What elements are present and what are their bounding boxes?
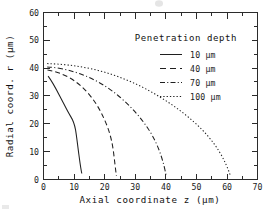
legend: Penetration depth 10 µm 40 µm 70 µm 100 … bbox=[135, 33, 237, 102]
y-tick-label: 0 bbox=[34, 175, 39, 185]
x-axis-title: Axial coordinate z (µm) bbox=[79, 194, 220, 205]
y-tick-label: 50 bbox=[29, 35, 39, 45]
x-tick-label: 10 bbox=[69, 182, 79, 192]
curve-40um bbox=[48, 70, 117, 176]
y-tick-label: 60 bbox=[29, 8, 39, 18]
legend-entry-10um[interactable]: 10 µm bbox=[160, 50, 216, 60]
curve-10um bbox=[48, 76, 82, 173]
x-tick-label: 0 bbox=[41, 182, 46, 192]
chart-plot: 0 10 20 30 40 50 60 70 bbox=[0, 0, 271, 213]
legend-label: 100 µm bbox=[190, 92, 221, 102]
x-tick-label: 70 bbox=[253, 182, 263, 192]
x-tick-label: 30 bbox=[130, 182, 140, 192]
y-tick-label: 30 bbox=[29, 91, 39, 101]
x-tick-label: 40 bbox=[161, 182, 171, 192]
x-tick-labels: 0 10 20 30 40 50 60 70 bbox=[41, 182, 262, 192]
y-tick-label: 10 bbox=[29, 147, 39, 157]
legend-label: 40 µm bbox=[190, 64, 216, 74]
legend-label: 10 µm bbox=[190, 50, 216, 60]
x-tick-label: 60 bbox=[222, 182, 232, 192]
legend-entry-70um[interactable]: 70 µm bbox=[160, 78, 216, 88]
legend-entry-100um[interactable]: 100 µm bbox=[160, 92, 221, 102]
y-tick-label: 20 bbox=[29, 119, 39, 129]
curve-70um bbox=[47, 67, 166, 176]
scan-artifact bbox=[2, 0, 163, 209]
y-axis-title: Radial coord. r (µm) bbox=[4, 35, 15, 158]
legend-entry-40um[interactable]: 40 µm bbox=[160, 64, 216, 74]
legend-label: 70 µm bbox=[190, 78, 216, 88]
figure-container: 0 10 20 30 40 50 60 70 bbox=[0, 0, 271, 213]
legend-title: Penetration depth bbox=[135, 33, 237, 43]
y-tick-label: 40 bbox=[29, 63, 39, 73]
x-tick-label: 50 bbox=[192, 182, 202, 192]
y-tick-labels: 0 10 20 30 40 50 60 bbox=[29, 8, 39, 185]
x-tick-label: 20 bbox=[100, 182, 110, 192]
